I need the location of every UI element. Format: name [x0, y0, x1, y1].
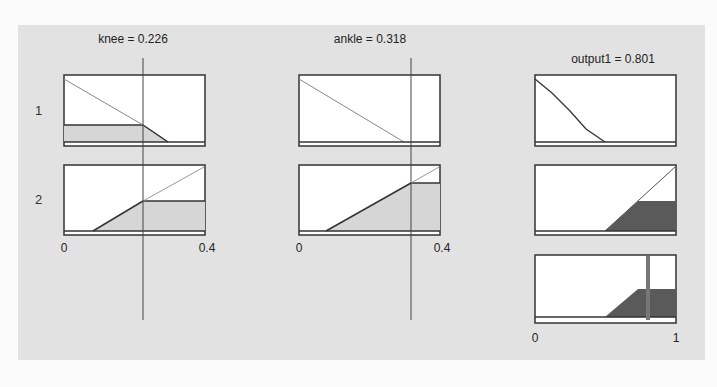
rule-viewer-plots: [0, 0, 717, 387]
ankle-rule1-panel[interactable]: [299, 75, 440, 146]
defuzzified-output-centroid: [646, 256, 650, 320]
knee-axis-max: 0.4: [199, 241, 216, 255]
ankle-rule2-panel[interactable]: [299, 165, 440, 235]
output-rule1-panel: [535, 75, 676, 146]
knee-rule1-panel[interactable]: [64, 75, 205, 146]
output-axis-max: 1: [673, 331, 680, 345]
output-rule2-panel: [535, 165, 676, 235]
knee-axis-min: 0: [61, 241, 68, 255]
output-axis-min: 0: [532, 331, 539, 345]
output-aggregate-panel: [535, 255, 676, 323]
ankle-axis-min: 0: [296, 241, 303, 255]
knee-rule2-panel[interactable]: [64, 165, 205, 235]
ankle-axis-max: 0.4: [434, 241, 451, 255]
